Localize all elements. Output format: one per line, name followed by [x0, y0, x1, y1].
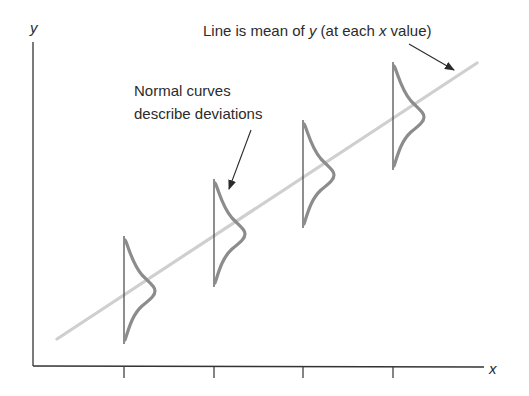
- regression-diagram: y x Line is mean of y (at each x value) …: [0, 0, 529, 396]
- mean-line-arrow: [409, 44, 454, 70]
- normal-curves-annotation-line1: Normal curves: [134, 82, 231, 99]
- normal-curves-annotation-line2: describe deviations: [134, 105, 262, 122]
- mean-line-annotation: Line is mean of y (at each x value): [203, 22, 431, 39]
- normal-curves-arrow: [229, 130, 251, 189]
- x-axis: [33, 366, 484, 367]
- y-axis-label: y: [29, 19, 39, 36]
- normal-curve-1: [124, 236, 155, 344]
- x-axis-label: x: [488, 360, 497, 377]
